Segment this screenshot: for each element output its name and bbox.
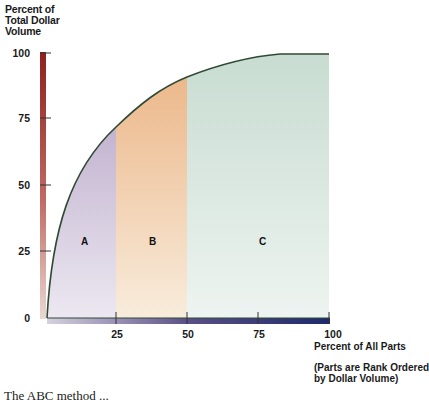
x-tick-50: 50 xyxy=(173,328,203,340)
x-axis-note-line: (Parts are Rank Ordered xyxy=(314,362,429,373)
x-axis-title: Percent of All Parts xyxy=(314,341,406,352)
region-label-b: B xyxy=(149,236,156,247)
region-a xyxy=(47,40,116,318)
abc-regions xyxy=(47,40,329,318)
x-tick-25: 25 xyxy=(102,328,132,340)
y-tick-25: 25 xyxy=(0,245,30,257)
y-tick-0: 0 xyxy=(0,312,30,324)
caption-text: The ABC method ... xyxy=(4,388,109,404)
y-tick-50: 50 xyxy=(0,179,30,191)
region-c xyxy=(187,40,329,318)
x-axis-note-line: by Dollar Volume) xyxy=(314,373,429,384)
x-axis-bar xyxy=(47,318,330,324)
y-tick-75: 75 xyxy=(0,112,30,124)
x-tick-100: 100 xyxy=(318,328,348,340)
x-tick-75: 75 xyxy=(244,328,274,340)
y-tick-100: 100 xyxy=(0,47,30,59)
region-label-c: C xyxy=(259,236,266,247)
region-label-a: A xyxy=(81,236,88,247)
x-axis-note: (Parts are Rank Ordered by Dollar Volume… xyxy=(314,362,429,384)
